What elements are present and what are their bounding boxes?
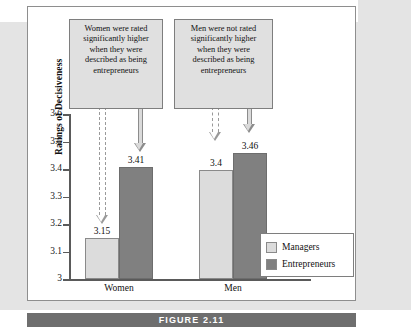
- callout-women-line-1: Women were rated: [73, 24, 159, 34]
- legend-label-entrepreneurs: Entrepreneurs: [282, 259, 335, 270]
- legend-item-entrepreneurs[interactable]: Entrepreneurs: [266, 256, 349, 273]
- callout-men-line-5: entrepreneurs: [178, 66, 269, 76]
- figure-caption-text: FIGURE 2.11: [159, 315, 225, 325]
- legend-label-managers: Managers: [282, 242, 319, 253]
- y-tick-label-3.4: 3.4: [28, 164, 62, 174]
- bar-women-managers[interactable]: [85, 238, 119, 279]
- bar-men-managers[interactable]: [199, 170, 233, 279]
- callout-men: Men were not rated significantly higher …: [174, 19, 273, 109]
- callout-men-line-2: significantly higher: [178, 34, 269, 44]
- callout-women-line-5: entrepreneurs: [73, 66, 159, 76]
- chart-legend: Managers Entrepreneurs: [260, 233, 354, 277]
- page-background-right: [358, 0, 411, 310]
- callout-women-line-3: when they were: [73, 45, 159, 55]
- figure-panel: 3.6 3.5 3.4 3.3 3.2 3.1 3 Ratings of Dec…: [27, 6, 356, 301]
- legend-item-managers[interactable]: Managers: [266, 239, 349, 256]
- y-tick-label-3.2: 3.2: [28, 219, 62, 229]
- y-tick-3.1: [63, 252, 69, 254]
- legend-swatch-managers-icon: [266, 242, 277, 253]
- chart-plot-area: 3.6 3.5 3.4 3.3 3.2 3.1 3 Ratings of Dec…: [28, 7, 357, 302]
- y-axis-title: Ratings of Decisiveness: [54, 59, 64, 155]
- bar-value-men-entrepreneurs: 3.46: [230, 141, 270, 151]
- y-tick-label-3.3: 3.3: [28, 192, 62, 202]
- bar-value-women-managers: 3.15: [82, 226, 122, 236]
- y-tick-label-3.1: 3.1: [28, 247, 62, 257]
- figure-caption-bar: FIGURE 2.11: [27, 313, 356, 327]
- callout-women-line-4: described as being: [73, 55, 159, 65]
- callout-women: Women were rated significantly higher wh…: [69, 19, 163, 109]
- x-axis-line: [69, 279, 311, 281]
- x-category-label-women: Women: [79, 283, 159, 293]
- callout-men-line-3: when they were: [178, 45, 269, 55]
- callout-men-line-4: described as being: [178, 55, 269, 65]
- y-tick-3.2: [63, 224, 69, 226]
- legend-swatch-entrepreneurs-icon: [266, 259, 277, 270]
- y-tick-3.4: [63, 169, 69, 171]
- bar-value-men-managers: 3.4: [196, 158, 236, 168]
- x-category-label-men: Men: [193, 283, 273, 293]
- callout-men-line-1: Men were not rated: [178, 24, 269, 34]
- y-axis-line: [69, 114, 71, 280]
- callout-women-line-2: significantly higher: [73, 34, 159, 44]
- bar-women-entrepreneurs[interactable]: [119, 167, 153, 279]
- y-tick-3.0: [63, 279, 69, 281]
- y-tick-3.3: [63, 197, 69, 199]
- bar-value-women-entrepreneurs: 3.41: [116, 155, 156, 165]
- y-tick-label-3.0: 3: [28, 274, 62, 284]
